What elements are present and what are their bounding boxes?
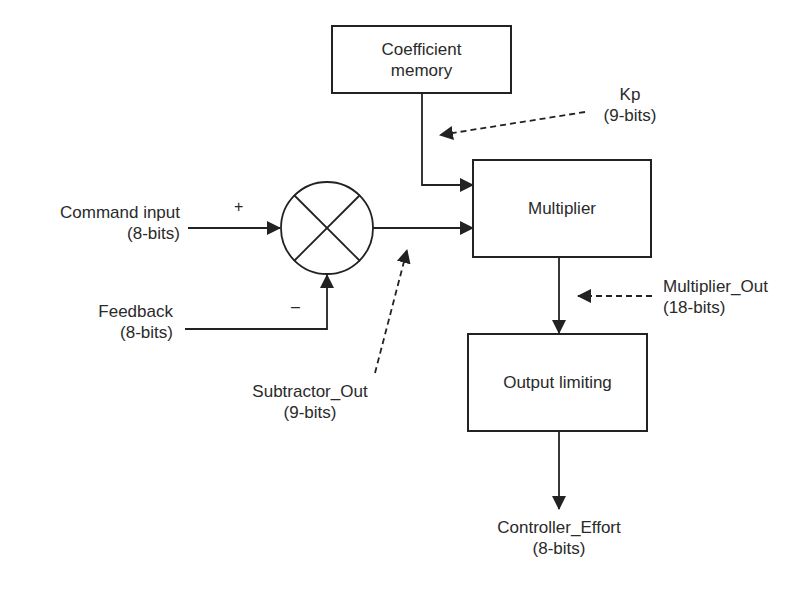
subtractor-out-width: (9-bits) bbox=[230, 402, 390, 423]
subtractor-out-name: Subtractor_Out bbox=[230, 381, 390, 402]
feedback-width: (8-bits) bbox=[10, 322, 173, 343]
command-input-name: Command input bbox=[10, 202, 180, 223]
minus-sign: – bbox=[291, 298, 300, 316]
controller-effort-name: Controller_Effort bbox=[469, 517, 649, 538]
command-input-label: Command input (8-bits) bbox=[10, 202, 180, 244]
kp-leader bbox=[440, 112, 585, 135]
output-limiting-label: Output limiting bbox=[468, 334, 647, 431]
multiplier-label: Multiplier bbox=[473, 160, 651, 257]
feedback-name: Feedback bbox=[10, 301, 173, 322]
subtractor-out-label: Subtractor_Out (9-bits) bbox=[230, 381, 390, 423]
controller-effort-width: (8-bits) bbox=[469, 538, 649, 559]
coefficient-memory-label: Coefficient memory bbox=[332, 28, 511, 92]
coefficient-memory-line2: memory bbox=[391, 60, 452, 81]
kp-width: (9-bits) bbox=[590, 105, 670, 126]
command-input-width: (8-bits) bbox=[10, 223, 180, 244]
coefficient-memory-line1: Coefficient bbox=[381, 39, 461, 60]
kp-label: Kp (9-bits) bbox=[590, 84, 670, 126]
controller-effort-label: Controller_Effort (8-bits) bbox=[469, 517, 649, 559]
multiplier-out-name: Multiplier_Out bbox=[663, 276, 803, 297]
kp-name: Kp bbox=[590, 84, 670, 105]
multiplier-out-width: (18-bits) bbox=[663, 297, 803, 318]
feedback-label: Feedback (8-bits) bbox=[10, 301, 173, 343]
feedback-wire bbox=[185, 275, 327, 329]
plus-sign: + bbox=[234, 198, 243, 216]
subtractor-out-leader bbox=[375, 250, 407, 373]
kp-wire bbox=[422, 93, 473, 185]
multiplier-out-label: Multiplier_Out (18-bits) bbox=[663, 276, 803, 318]
subtractor-junction bbox=[281, 182, 373, 274]
